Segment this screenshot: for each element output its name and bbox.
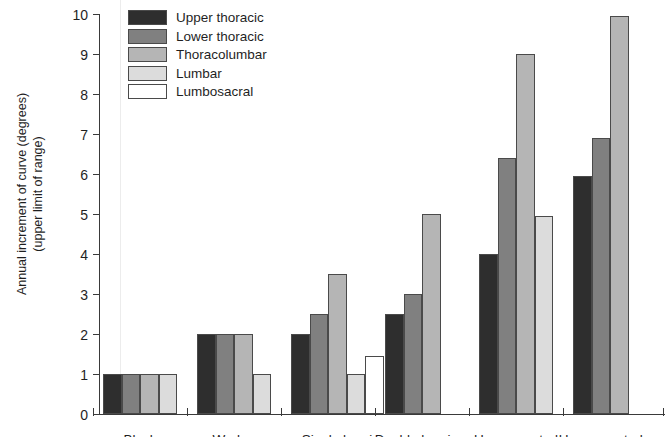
legend-swatch	[128, 47, 167, 62]
bar	[291, 334, 310, 414]
legend-label: Lower thoracic	[176, 29, 264, 44]
y-axis-title-line-1: Annual increment of curve (degrees)	[14, 4, 30, 384]
x-axis-label: Double hemi	[375, 433, 451, 437]
legend-label: Lumbosacral	[176, 84, 253, 99]
y-axis-title: Annual increment of curve (degrees) (upp…	[0, 0, 46, 437]
y-axis-tick	[93, 134, 100, 135]
bar	[404, 294, 423, 414]
bar	[385, 314, 404, 414]
x-axis-tick	[187, 408, 188, 416]
y-axis-tick	[93, 374, 100, 375]
bar	[516, 54, 535, 414]
y-axis-tick	[93, 214, 100, 215]
y-axis-tick-label: 5	[48, 208, 88, 222]
x-axis-tick	[563, 408, 564, 416]
bar-chart: Annual increment of curve (degrees) (upp…	[0, 0, 672, 437]
x-axis-label: Wedge	[213, 433, 256, 437]
y-axis-tick	[93, 54, 100, 55]
bar	[535, 216, 554, 414]
bar	[310, 314, 329, 414]
x-axis-label: Block	[124, 433, 157, 437]
legend-item: Lumbar	[128, 66, 267, 81]
bar	[347, 374, 366, 414]
bar	[610, 16, 629, 414]
x-axis-tick	[663, 408, 664, 416]
bar	[573, 176, 592, 414]
y-axis-tick-label: 7	[48, 128, 88, 142]
bar	[197, 334, 216, 414]
legend-swatch	[128, 29, 167, 44]
y-axis-tick-label: 9	[48, 48, 88, 62]
legend-label: Lumbar	[176, 66, 222, 81]
y-axis-tick	[93, 94, 100, 95]
y-axis-tick-label: 2	[48, 328, 88, 342]
bar	[234, 334, 253, 414]
y-axis-tick	[93, 14, 100, 15]
y-axis-tick-label: 0	[48, 408, 88, 422]
y-axis-tick-label: 10	[48, 8, 88, 22]
legend: Upper thoracicLower thoracicThoracolumba…	[128, 10, 267, 99]
y-axis-tick	[93, 294, 100, 295]
y-axis-tick	[93, 254, 100, 255]
bar	[159, 374, 178, 414]
x-axis-tick	[281, 408, 282, 416]
bar	[103, 374, 122, 414]
x-axis-label: Unsegmented	[474, 433, 558, 437]
bar	[479, 254, 498, 414]
y-axis-tick	[93, 174, 100, 175]
legend-label: Thoracolumbar	[176, 47, 267, 62]
y-axis-tick-label: 1	[48, 368, 88, 382]
bar	[422, 214, 441, 414]
y-axis-tick-label: 4	[48, 248, 88, 262]
legend-swatch	[128, 66, 167, 81]
bar	[328, 274, 347, 414]
bar	[253, 374, 272, 414]
legend-item: Thoracolumbar	[128, 47, 267, 62]
y-axis-title-line-2: (upper limit of range)	[30, 4, 46, 384]
legend-item: Lower thoracic	[128, 29, 267, 44]
bar	[365, 356, 384, 414]
legend-label: Upper thoracic	[176, 10, 264, 25]
y-axis-tick-label: 8	[48, 88, 88, 102]
bar	[592, 138, 611, 414]
y-axis-tick	[93, 334, 100, 335]
bar	[216, 334, 235, 414]
y-axis-tick-label: 6	[48, 168, 88, 182]
x-axis-tick	[375, 408, 376, 416]
legend-swatch	[128, 84, 167, 99]
legend-item: Lumbosacral	[128, 84, 267, 99]
x-axis-tick	[93, 408, 94, 416]
y-axis-tick	[93, 414, 100, 415]
legend-swatch	[128, 10, 167, 25]
bar	[140, 374, 159, 414]
y-axis-tick-label: 3	[48, 288, 88, 302]
bar	[122, 374, 141, 414]
legend-item: Upper thoracic	[128, 10, 267, 25]
bar	[498, 158, 517, 414]
x-axis-tick	[469, 408, 470, 416]
x-axis-label: Unsegmented	[559, 433, 643, 437]
x-axis-label: Single hemi	[302, 433, 373, 437]
